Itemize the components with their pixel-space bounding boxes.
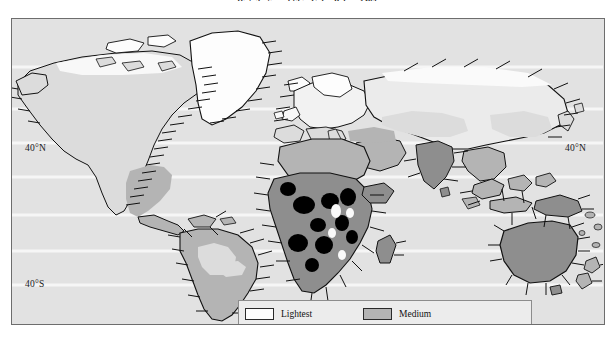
map-legend: Lightest Medium Medium Light Medium Dark: [238, 300, 532, 325]
figure-caption: Distribution of Skin Color Before 1492.: [0, 0, 616, 1]
figure-caption-text: Distribution of Skin Color Before 1492.: [237, 0, 379, 1]
latitude-label-40n-right: 40°N: [565, 143, 586, 153]
legend-item-medium: Medium: [363, 308, 473, 320]
legend-label-lightest: Lightest: [281, 309, 312, 319]
legend-item-medium-dark: Medium Dark: [359, 325, 465, 326]
map-frame: 40°N 40°N 40°S Lightest Medium Medium Li…: [11, 18, 605, 325]
legend-item-darkest: Darkest: [465, 325, 531, 326]
legend-swatch-darkest: [465, 325, 494, 326]
figure-container: Distribution of Skin Color Before 1492.: [0, 0, 616, 360]
legend-item-lightest: Lightest: [245, 308, 363, 320]
world-map-graphic: [12, 19, 603, 323]
legend-swatch-medium: [363, 308, 392, 320]
latitude-label-40s-left: 40°S: [25, 279, 44, 289]
legend-row-1: Lightest Medium: [245, 305, 531, 322]
legend-item-medium-light: Medium Light: [245, 325, 359, 326]
legend-swatch-medium-dark: [359, 325, 388, 326]
latitude-label-40n-left: 40°N: [25, 143, 46, 153]
legend-row-2: Medium Light Medium Dark Darkest: [245, 322, 531, 325]
legend-swatch-lightest: [245, 308, 274, 320]
legend-swatch-medium-light: [245, 325, 274, 326]
legend-label-medium: Medium: [399, 309, 431, 319]
